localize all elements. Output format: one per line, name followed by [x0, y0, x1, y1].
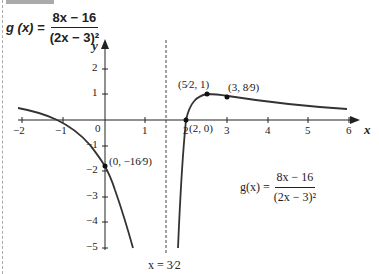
x-tick-label: 6: [346, 124, 352, 136]
label-point-three: (3, 8⁄9): [228, 81, 259, 93]
y-tick-label: 1: [92, 86, 98, 98]
y-tick-label: −3: [86, 189, 98, 201]
x-tick-label: 2: [183, 124, 189, 136]
x-axis-label: x: [364, 122, 371, 138]
y-tick-label: −1: [86, 138, 98, 150]
point-x-intercept: [184, 118, 189, 123]
y-axis-label: y: [92, 38, 98, 54]
x-tick-label: 0: [95, 122, 101, 134]
y-tick-label: −4: [86, 214, 98, 226]
x-tick-label: 5: [305, 124, 311, 136]
function-numerator: 8x − 16: [275, 170, 316, 188]
x-tick-label: 3: [224, 124, 230, 136]
x-tick-label: 4: [265, 124, 271, 136]
x-tick-label: −1: [55, 124, 67, 136]
x-axis-arrow-icon: [350, 116, 360, 124]
y-tick-label: 2: [92, 61, 98, 73]
point-three: [225, 95, 230, 100]
label-x-intercept: (2, 0): [189, 122, 213, 134]
curve-left-branch: [18, 108, 133, 248]
label-max: (5⁄2, 1): [178, 78, 209, 90]
label-y-intercept: (0, −16⁄9): [109, 155, 152, 167]
function-lhs: g(x) =: [240, 180, 270, 195]
asymptote-label: x = 3⁄2: [148, 258, 181, 273]
point-y-intercept: [103, 164, 108, 169]
point-max: [205, 92, 210, 97]
plot-area: [0, 0, 379, 274]
function-label: g(x) = 8x − 16 (2x − 3)²: [240, 170, 316, 205]
x-tick-label: −2: [13, 124, 25, 136]
function-denominator: (2x − 3)²: [274, 188, 316, 205]
y-tick-label: −2: [86, 163, 98, 175]
y-axis-arrow-icon: [101, 39, 109, 49]
x-tick-label: 1: [142, 124, 148, 136]
y-tick-label: −5: [86, 240, 98, 252]
function-fraction: 8x − 16 (2x − 3)²: [274, 170, 316, 205]
